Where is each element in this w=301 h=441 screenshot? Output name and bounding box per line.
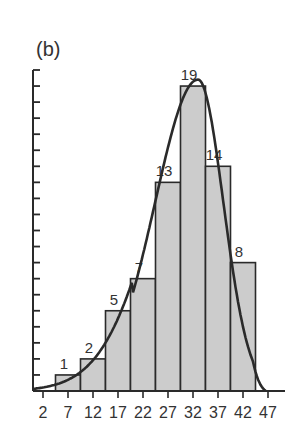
histogram-bar	[156, 182, 181, 391]
histogram-bar	[106, 311, 131, 391]
bar-value-label: 1	[60, 355, 68, 372]
x-tick-label: 22	[134, 404, 152, 421]
histogram-bar	[131, 279, 156, 391]
x-tick-label: 32	[184, 404, 202, 421]
x-tick-label: 12	[84, 404, 102, 421]
x-tick-label: 47	[259, 404, 277, 421]
x-tick-label: 2	[39, 404, 48, 421]
bar-value-label: 14	[206, 146, 223, 163]
x-tick-label: 37	[209, 404, 227, 421]
x-tick-label: 27	[159, 404, 177, 421]
panel-label: (b)	[36, 38, 60, 60]
y-axis	[33, 70, 40, 391]
x-axis: 271217222732374247	[33, 391, 285, 421]
x-tick-label: 42	[234, 404, 252, 421]
x-tick-label: 7	[64, 404, 73, 421]
histogram-chart: (b) 12571319148 271217222732374247	[0, 0, 301, 441]
bar-value-label: 2	[85, 339, 93, 356]
bar-value-label: 5	[110, 291, 118, 308]
histogram-bar	[181, 86, 206, 391]
x-tick-label: 17	[109, 404, 127, 421]
histogram-bar	[81, 359, 106, 391]
histogram-bar	[206, 166, 231, 391]
bar-value-label: 8	[235, 243, 243, 260]
